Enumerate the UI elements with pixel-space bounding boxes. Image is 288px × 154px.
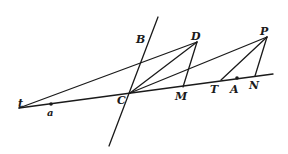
- line-tD: [19, 42, 197, 108]
- point-A: [235, 76, 239, 80]
- geometric-diagram: t a C B D M P T A N: [0, 0, 288, 154]
- label-a: a: [47, 107, 53, 118]
- label-P: P: [259, 25, 269, 38]
- label-B: B: [135, 33, 145, 46]
- label-C: C: [117, 94, 126, 107]
- label-A: A: [229, 83, 239, 96]
- line-BC: [109, 17, 158, 146]
- label-T: T: [210, 83, 219, 96]
- label-D: D: [190, 30, 201, 43]
- label-t: t: [18, 97, 23, 110]
- label-M: M: [174, 90, 188, 103]
- label-N: N: [248, 79, 260, 92]
- line-DM: [183, 42, 197, 87]
- point-a: [49, 102, 53, 106]
